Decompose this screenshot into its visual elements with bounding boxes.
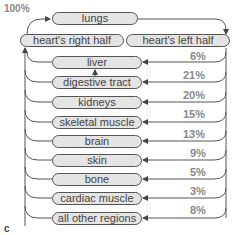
- node-brain: brain: [52, 135, 142, 148]
- percent-cardiac-muscle: 3%: [190, 185, 206, 197]
- percent-digestive-tract: 21%: [183, 69, 205, 81]
- panel-label: c: [4, 223, 10, 234]
- node-skeletal-muscle: skeletal muscle: [52, 116, 142, 129]
- percent-bone: 5%: [190, 166, 206, 178]
- percent-skin: 9%: [190, 147, 206, 159]
- node-heart-left: heart's left half: [126, 34, 230, 47]
- node-digestive-tract: digestive tract: [52, 76, 142, 89]
- total-percent: 100%: [4, 3, 30, 14]
- node-heart-right: heart's right half: [20, 34, 124, 47]
- percent-skeletal-muscle: 15%: [183, 108, 205, 120]
- percent-all-other-regions: 8%: [190, 204, 206, 216]
- node-bone: bone: [52, 173, 142, 186]
- node-kidneys: kidneys: [52, 96, 142, 109]
- node-all-other-regions: all other regions: [52, 212, 142, 225]
- node-lungs: lungs: [52, 12, 138, 25]
- node-skin: skin: [52, 154, 142, 167]
- node-cardiac-muscle: cardiac muscle: [52, 192, 142, 205]
- node-liver: liver: [52, 56, 142, 69]
- percent-liver: 6%: [190, 50, 206, 62]
- percent-brain: 13%: [183, 128, 205, 140]
- percent-kidneys: 20%: [183, 89, 205, 101]
